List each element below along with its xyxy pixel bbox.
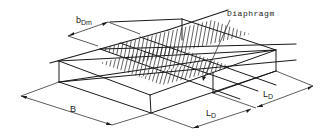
dimension-ld-1: LD bbox=[151, 93, 256, 128]
diaphragm-label: Diaphragm bbox=[227, 9, 275, 18]
hatch-line bbox=[158, 40, 168, 82]
ld-label-1: LD bbox=[206, 108, 216, 119]
hatch-line bbox=[254, 15, 264, 70]
b-dm-label: bDm bbox=[76, 15, 92, 26]
diaphragm-leader bbox=[204, 20, 230, 78]
diaphragm-leader-arrow-icon bbox=[202, 76, 206, 81]
hatch-line bbox=[218, 55, 228, 90]
arrow-left-icon bbox=[193, 125, 199, 128]
ld-label-2: LD bbox=[263, 89, 273, 100]
hatch-line bbox=[210, 55, 220, 90]
diaphragm-diagram: Diaphragm bDm B LD LD bbox=[0, 0, 331, 139]
hatch-line bbox=[258, 15, 268, 70]
hatch-line bbox=[222, 15, 232, 70]
b-label: B bbox=[70, 104, 76, 114]
arrow-right-icon bbox=[102, 22, 108, 26]
arrow-right-icon bbox=[106, 122, 112, 125]
hatch-line bbox=[214, 15, 224, 70]
hatch-line bbox=[226, 15, 236, 70]
arrow-left-icon bbox=[68, 32, 74, 36]
hatch-line bbox=[214, 55, 224, 90]
arrow-left-icon bbox=[257, 104, 263, 107]
hatch-line bbox=[250, 15, 260, 70]
dimension-ld-2: LD bbox=[257, 71, 313, 107]
arrow-left-icon bbox=[21, 96, 27, 99]
arrow-right-icon bbox=[246, 109, 251, 113]
arrow-right-icon bbox=[308, 86, 313, 90]
hatch-line bbox=[230, 15, 240, 70]
hatch-line bbox=[222, 55, 232, 90]
